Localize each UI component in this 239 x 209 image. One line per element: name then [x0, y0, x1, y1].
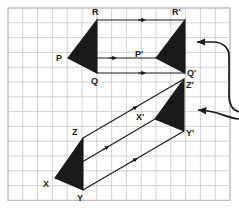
vertex-label-Y: Y: [77, 194, 83, 203]
grid-border: [8, 8, 230, 200]
vector-z-to-z-prime-arrowhead: [131, 107, 136, 110]
vector-x-to-x-prime-arrowhead: [102, 147, 107, 150]
vertex-label-P: P: [56, 54, 62, 63]
vertex-label-X: X: [43, 180, 49, 189]
triangle-xyz-image: [155, 79, 184, 131]
vertex-label-R: R: [92, 8, 99, 17]
translation-diagram-canvas: [0, 0, 239, 209]
vertex-label-Q: Q: [91, 77, 98, 86]
vertex-label-P-prime: P': [135, 50, 143, 59]
grid: [8, 8, 230, 200]
vertex-label-R-prime: R': [172, 8, 181, 17]
vertex-label-Z: Z: [72, 128, 78, 137]
vertex-label-X-prime: X': [136, 113, 144, 122]
vertex-label-Z-prime: Z': [186, 81, 194, 90]
diagram-root: P Q R P' Q' R' X Y Z X' Y' Z': [0, 0, 239, 209]
triangle-xyz: [55, 138, 83, 190]
vertex-label-Y-prime: Y': [186, 129, 194, 138]
triangle-pqr: [68, 20, 97, 73]
triangles: [55, 20, 185, 190]
vertex-label-Q-prime: Q': [187, 69, 196, 78]
vector-y-to-y-prime-arrowhead: [131, 159, 136, 162]
